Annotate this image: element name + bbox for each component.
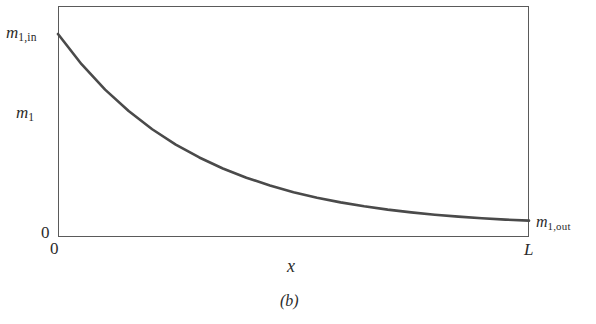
x-axis-end-tick-label: L: [524, 241, 533, 258]
y-axis-variable-label: m1: [16, 104, 34, 124]
inlet-label-subscript: 1,in: [18, 31, 36, 44]
y-axis-label-subscript: 1: [28, 111, 34, 124]
decay-curve-svg: [58, 6, 529, 237]
outlet-concentration-label: m1,out: [536, 214, 571, 232]
decay-curve-path: [58, 34, 529, 221]
figure-caption: (b): [280, 293, 299, 309]
y-axis-origin-tick-label: 0: [41, 224, 50, 241]
figure-container: m1,in m1 0 0 L m1,out x (b): [0, 0, 596, 324]
outlet-label-base: m: [536, 213, 548, 230]
x-axis-origin-tick-label: 0: [50, 240, 59, 257]
outlet-label-subscript: 1,out: [548, 220, 571, 232]
x-axis-title: x: [287, 257, 295, 275]
y-axis-label-base: m: [16, 103, 28, 122]
inlet-concentration-label: m1,in: [6, 24, 37, 44]
inlet-label-base: m: [6, 23, 18, 42]
